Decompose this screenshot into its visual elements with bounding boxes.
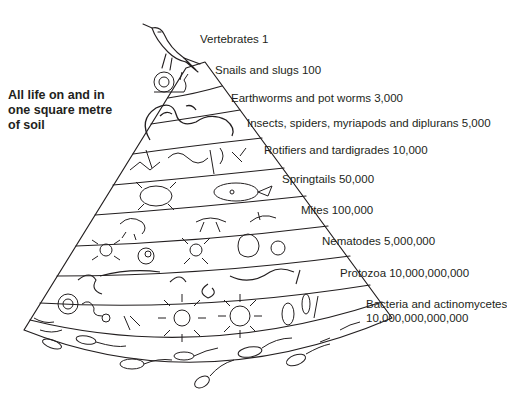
label-snails-slugs: Snails and slugs 100 [215,63,321,77]
label-vertebrates: Vertebrates 1 [200,32,268,46]
band-divider [95,196,306,215]
label-bacteria: Bacteria and actinomycetes 10,000,000,00… [366,297,507,325]
label-bacteria-count: 10,000,000,000,000 [366,311,507,325]
title-line: of soil [8,118,128,133]
bacteria-icon [34,318,360,390]
protozoa-icon [58,294,318,342]
label-bacteria-name: Bacteria and actinomycetes [366,297,507,311]
title-line: All life on and in [8,88,128,103]
band-divider [30,302,382,337]
bird-icon [143,24,200,72]
title-line: one square metre [8,103,128,118]
label-earthworms: Earthworms and pot worms 3,000 [231,91,403,105]
label-rotifers: Rotifiers and tardigrades 10,000 [264,143,428,157]
diagram-title: All life on and in one square metre of s… [8,88,128,133]
band-divider [76,226,328,246]
label-springtails: Springtails 50,000 [282,172,374,186]
label-nematodes: Nematodes 5,000,000 [322,234,435,248]
label-mites: Mites 100,000 [301,203,373,217]
label-protozoa: Protozoa 10,000,000,000 [340,266,469,280]
snail-icon [154,72,188,92]
band-divider [113,168,284,185]
mite-icon [92,234,285,264]
band-divider [133,138,262,154]
nematode-icon [78,269,300,298]
label-insects: Insects, spiders, myriapods and dipluran… [247,116,491,130]
